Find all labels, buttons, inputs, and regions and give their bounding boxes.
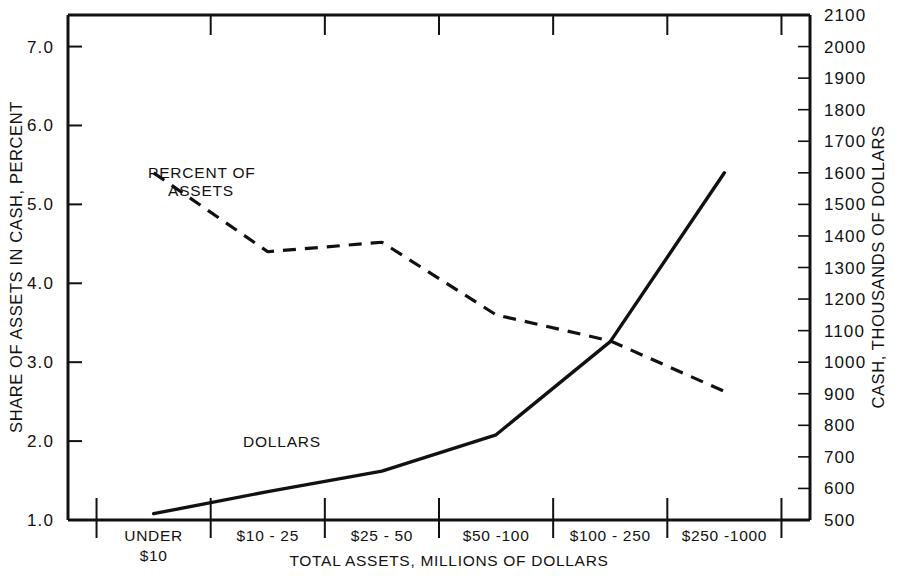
chart-canvas: 7.06.05.04.03.02.01.0 210020001900180017…	[0, 0, 898, 577]
right-tick-label: 700	[824, 448, 856, 467]
right-tick-label: 1300	[824, 259, 866, 278]
right-tick-label: 1800	[824, 101, 866, 120]
right-tick-label: 1200	[824, 290, 866, 309]
right-tick-label: 800	[824, 416, 856, 435]
right-tick-label: 900	[824, 385, 856, 404]
percent-of-assets-label-line2: ASSETS	[168, 182, 234, 199]
category-label: $50 -100	[463, 527, 530, 544]
left-tick-label: 1.0	[27, 511, 54, 530]
left-tick-label: 7.0	[27, 38, 54, 57]
right-tick-label: 1700	[824, 132, 866, 151]
category-label: $100 - 250	[570, 527, 651, 544]
dollars-label: DOLLARS	[243, 433, 321, 450]
right-tick-label: 1000	[824, 353, 866, 372]
right-tick-label: 1500	[824, 195, 866, 214]
category-label: $25 - 50	[351, 527, 413, 544]
percent-of-assets-label-line1: PERCENT OF	[148, 164, 256, 181]
right-tick-label: 1400	[824, 227, 866, 246]
chart-background	[0, 0, 898, 577]
right-tick-label: 1100	[824, 322, 865, 341]
category-label: UNDER	[124, 527, 183, 544]
right-tick-label: 1900	[824, 69, 866, 88]
y-axis-title-left: SHARE OF ASSETS IN CASH, PERCENT	[7, 101, 25, 433]
left-tick-label: 6.0	[27, 116, 54, 135]
right-tick-label: 600	[824, 479, 856, 498]
left-tick-label: 4.0	[27, 274, 54, 293]
right-tick-label: 1600	[824, 164, 866, 183]
left-tick-label: 3.0	[27, 353, 54, 372]
category-label: $250 -1000	[682, 527, 767, 544]
left-tick-label: 5.0	[27, 195, 54, 214]
chart-figure: 7.06.05.04.03.02.01.0 210020001900180017…	[0, 0, 898, 577]
x-axis-title: TOTAL ASSETS, MILLIONS OF DOLLARS	[289, 552, 608, 569]
right-tick-label: 2100	[824, 6, 866, 25]
category-label: $10 - 25	[237, 527, 299, 544]
left-tick-label: 2.0	[27, 432, 54, 451]
category-label-line2: $10	[140, 547, 168, 564]
right-tick-label: 500	[824, 511, 856, 530]
right-tick-label: 2000	[824, 38, 866, 57]
y-axis-title-right: CASH, THOUSANDS OF DOLLARS	[869, 125, 887, 408]
